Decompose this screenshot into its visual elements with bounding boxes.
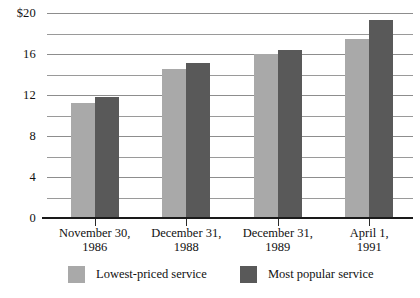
x-axis-tick-label: April 1, 1991 xyxy=(304,226,420,254)
y-axis-tick-label: 0 xyxy=(30,211,36,226)
chart-legend: Lowest-priced service Most popular servi… xyxy=(0,266,420,288)
bar xyxy=(254,54,278,218)
x-axis-tick xyxy=(278,219,279,226)
bar-group xyxy=(162,13,210,218)
y-axis-tick-label: 4 xyxy=(30,170,36,185)
bar xyxy=(186,63,210,218)
legend-item-most-popular-service: Most popular service xyxy=(240,266,374,283)
x-axis-tick xyxy=(369,219,370,226)
bar-group xyxy=(71,13,119,218)
bar-group xyxy=(345,13,393,218)
legend-label-lowest-priced-service: Lowest-priced service xyxy=(96,267,207,282)
x-axis-baseline xyxy=(42,217,413,219)
y-axis-tick-label: 16 xyxy=(23,47,36,62)
bar xyxy=(162,69,186,218)
legend-label-most-popular-service: Most popular service xyxy=(268,267,374,282)
x-axis-tick xyxy=(95,219,96,226)
y-axis-tick-label: 12 xyxy=(23,88,36,103)
legend-item-lowest-priced-service: Lowest-priced service xyxy=(68,266,207,283)
bars-layer xyxy=(47,13,413,218)
bar xyxy=(278,50,302,218)
bar xyxy=(345,39,369,218)
bar xyxy=(369,20,393,218)
legend-swatch-most-popular-service xyxy=(240,266,257,283)
x-axis-tick xyxy=(186,219,187,226)
bar-group xyxy=(254,13,302,218)
bar xyxy=(71,103,95,218)
bar xyxy=(95,97,119,218)
y-axis-tick-label: $20 xyxy=(17,6,36,21)
y-axis-tick-label: 8 xyxy=(30,129,36,144)
bar-chart: 0481216$20 November 30, 1986December 31,… xyxy=(0,0,420,298)
legend-swatch-lowest-priced-service xyxy=(68,266,85,283)
